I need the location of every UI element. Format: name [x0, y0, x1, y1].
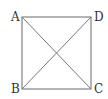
vertex-label-a: A — [10, 10, 20, 24]
vertex-label-c: C — [94, 82, 103, 96]
vertex-label-d: D — [94, 10, 104, 24]
vertex-label-b: B — [11, 82, 20, 96]
square-diagram: A D C B — [0, 0, 108, 99]
